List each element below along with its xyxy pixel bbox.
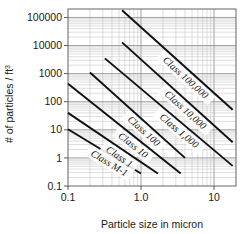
y-tick-label: 10000: [33, 39, 62, 51]
y-tick-label: 1: [56, 152, 62, 164]
x-tick-label: 0.1: [61, 191, 76, 203]
x-axis-title: Particle size in micron: [101, 218, 203, 230]
y-axis-title-base: # of particles / ft: [3, 69, 15, 143]
y-tick-label: 10: [50, 123, 62, 135]
y-tick-label: 100000: [27, 11, 62, 23]
svg-text:# of particles / ft3: # of particles / ft3: [3, 65, 15, 143]
y-axis-title-superscript: 3: [4, 65, 11, 69]
particle-count-vs-size-loglog-chart: Class 100,000Class 10,000Class 1,000Clas…: [0, 0, 245, 234]
y-tick-label: 100: [44, 95, 62, 107]
x-tick-label: 1.0: [134, 191, 149, 203]
x-tick-label: 10: [208, 191, 220, 203]
y-axis-title: # of particles / ft3: [3, 65, 15, 143]
y-tick-label: 0.1: [47, 180, 62, 192]
y-tick-label: 1000: [39, 67, 63, 79]
chart-figure: Class 100,000Class 10,000Class 1,000Clas…: [0, 0, 245, 234]
